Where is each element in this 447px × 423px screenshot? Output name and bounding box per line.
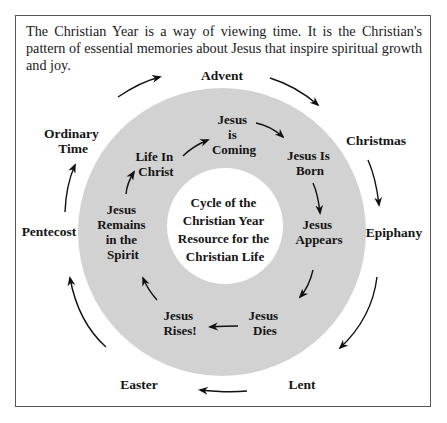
arrow-lent-to-easter — [200, 390, 247, 392]
event-jesus-dies: Jesus Dies — [249, 308, 282, 338]
christian-year-cycle-diagram: Cycle of the Christian Year Resource for… — [0, 0, 447, 423]
season-epiphany: Epiphany — [366, 225, 423, 240]
season-christmas: Christmas — [346, 133, 406, 148]
arrow-pentecost-to-ordinary — [65, 165, 75, 212]
season-ordinary-time: Ordinary Time — [44, 126, 102, 156]
season-pentecost: Pentecost — [22, 224, 77, 239]
season-lent: Lent — [289, 377, 317, 392]
event-jesus-rises: Jesus Rises! — [163, 308, 196, 338]
season-advent: Advent — [201, 68, 244, 83]
season-easter: Easter — [120, 377, 158, 392]
event-jesus-appears: Jesus Appears — [296, 217, 343, 247]
arrow-ordinary-to-advent — [118, 77, 160, 97]
arrow-christmas-to-epiphany — [368, 160, 379, 205]
event-life-in-christ: Life In Christ — [135, 149, 176, 179]
